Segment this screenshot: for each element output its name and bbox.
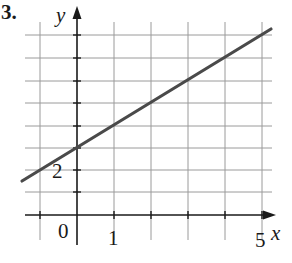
x-axis-arrow-icon (263, 211, 276, 220)
y-axis (73, 6, 82, 245)
graph-figure: 3. (0, 0, 292, 263)
x-tick-label-5: 5 (255, 228, 266, 252)
y-axis-arrow-icon (73, 6, 82, 19)
coordinate-plane: y x 0 1 5 2 (0, 0, 292, 263)
x-axis-label: x (270, 221, 281, 245)
origin-label: 0 (58, 219, 69, 243)
x-tick-label-1: 1 (108, 226, 119, 250)
y-axis-label: y (54, 3, 66, 27)
y-tick-label-2: 2 (52, 159, 63, 183)
